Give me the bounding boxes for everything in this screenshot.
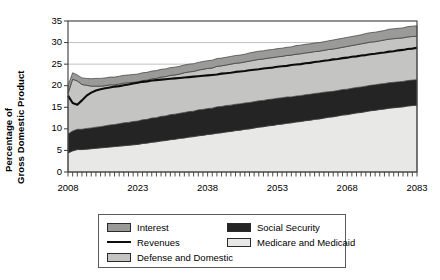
x-tick-label: 2038 (186, 182, 230, 193)
legend-swatch-interest (107, 223, 131, 232)
y-tick-label: 10 (26, 122, 62, 133)
legend-item-interest: Interest (107, 220, 169, 234)
legend-label-revenues: Revenues (137, 237, 180, 248)
legend-swatch-medicare-and-medicaid (227, 238, 251, 247)
x-tick-label: 2008 (46, 182, 90, 193)
chart-legend: Interest Revenues Defense and Domestic S… (98, 214, 346, 268)
legend-label-social-security: Social Security (257, 222, 320, 233)
legend-label-medicare-and-medicaid: Medicare and Medicaid (257, 237, 355, 248)
y-tick-label: 0 (26, 166, 62, 177)
legend-label-defense-and-domestic: Defense and Domestic (137, 252, 233, 263)
x-tick-label: 2053 (255, 182, 299, 193)
x-tick-label: 2083 (395, 182, 439, 193)
y-tick-label: 25 (26, 58, 62, 69)
legend-item-revenues: Revenues (107, 235, 180, 249)
y-tick-label: 15 (26, 101, 62, 112)
x-tick-label: 2068 (325, 182, 369, 193)
y-tick-label: 20 (26, 79, 62, 90)
legend-item-social-security: Social Security (227, 220, 320, 234)
legend-line-revenues (107, 238, 131, 247)
x-tick-label: 2023 (116, 182, 160, 193)
y-tick-label: 35 (26, 15, 62, 26)
legend-label-interest: Interest (137, 222, 169, 233)
legend-item-medicare-and-medicaid: Medicare and Medicaid (227, 235, 355, 249)
legend-swatch-social-security (227, 223, 251, 232)
figure-container: Percentage of Gross Domestic Product 051… (0, 0, 440, 280)
y-tick-label: 5 (26, 144, 62, 155)
y-tick-label: 30 (26, 36, 62, 47)
legend-swatch-defense-and-domestic (107, 253, 131, 262)
legend-item-defense-and-domestic: Defense and Domestic (107, 250, 233, 264)
